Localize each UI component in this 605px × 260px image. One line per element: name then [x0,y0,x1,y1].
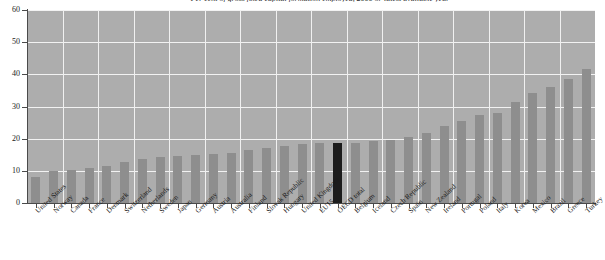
bar [528,93,537,203]
y-tick-mark [22,203,28,204]
y-tick-label: 10 [2,167,20,175]
gridline-vertical [240,10,241,203]
bar [564,79,573,203]
gridline-vertical [418,10,419,203]
gridline-vertical [205,10,206,203]
bar [333,143,342,203]
gridline-vertical [489,10,490,203]
y-tick-mark [22,107,28,108]
gridline-vertical [276,10,277,203]
y-tick-mark [22,74,28,75]
y-tick-label: 30 [2,103,20,111]
y-tick-mark [22,10,28,11]
bar [386,140,395,203]
bar [546,87,555,203]
gridline-vertical [347,10,348,203]
y-tick-mark [22,171,28,172]
bar [493,113,502,203]
gridline-vertical [169,10,170,203]
gridline-vertical [524,10,525,203]
y-tick-label: 60 [2,6,20,14]
chart-title: Per cent of gross fixed capital formatio… [110,0,530,2]
bar [31,177,40,203]
gridline-vertical [453,10,454,203]
gridline-vertical [382,10,383,203]
gridline-vertical [311,10,312,203]
y-tick-label: 50 [2,38,20,46]
gridline-vertical [560,10,561,203]
gridline-vertical [63,10,64,203]
bar [457,121,466,203]
y-tick-label: 40 [2,70,20,78]
bar [191,155,200,203]
bar [475,115,484,203]
bar [582,69,591,203]
y-tick-mark [22,139,28,140]
y-tick-label: 0 [2,199,20,207]
bar [422,133,431,203]
plot-area [27,10,595,203]
gridline-vertical [98,10,99,203]
bar [511,102,520,203]
gridline-vertical [134,10,135,203]
y-tick-mark [22,42,28,43]
y-tick-label: 20 [2,135,20,143]
